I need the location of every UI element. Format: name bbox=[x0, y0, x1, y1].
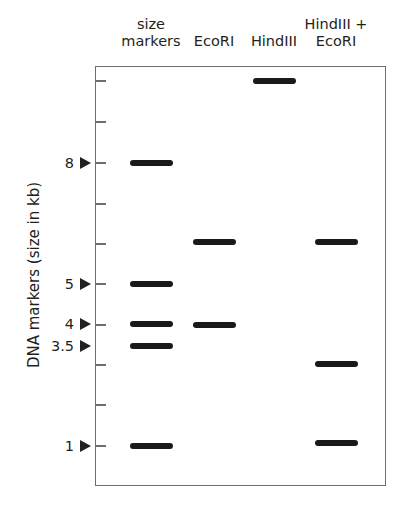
dna-band bbox=[315, 361, 358, 367]
axis-tick bbox=[95, 324, 106, 325]
dna-band bbox=[130, 443, 173, 449]
marker-arrow-icon bbox=[80, 340, 91, 352]
lane-label-ecori: EcoRI bbox=[194, 33, 234, 50]
dna-band bbox=[130, 281, 173, 287]
axis-tick bbox=[95, 121, 106, 122]
marker-arrow-icon bbox=[80, 278, 91, 290]
lane-label-hindiii: HindIII bbox=[251, 33, 297, 50]
marker-arrow-icon bbox=[80, 318, 91, 330]
axis-tick bbox=[95, 243, 106, 244]
axis-tick bbox=[95, 404, 106, 405]
marker-label: 5 bbox=[34, 276, 74, 292]
lane-label-hindiii-ecori: HindIII + EcoRI bbox=[305, 16, 368, 50]
axis-tick bbox=[95, 445, 106, 446]
marker-label: 3.5 bbox=[34, 338, 74, 354]
marker-label: 1 bbox=[34, 438, 74, 454]
axis-tick bbox=[95, 364, 106, 365]
dna-band bbox=[130, 321, 173, 327]
dna-band bbox=[130, 343, 173, 349]
marker-label: 4 bbox=[34, 316, 74, 332]
axis-tick bbox=[95, 80, 106, 81]
marker-label: 8 bbox=[34, 155, 74, 171]
dna-band bbox=[253, 78, 296, 84]
dna-band bbox=[130, 160, 173, 166]
dna-band bbox=[193, 322, 236, 328]
axis-tick bbox=[95, 162, 106, 163]
marker-arrow-icon bbox=[80, 440, 91, 452]
gel-frame bbox=[95, 66, 386, 486]
dna-band bbox=[315, 440, 358, 446]
dna-band bbox=[315, 239, 358, 245]
dna-band bbox=[193, 239, 236, 245]
lane-label-size-markers: size markers bbox=[121, 16, 180, 50]
marker-arrow-icon bbox=[80, 157, 91, 169]
axis-tick bbox=[95, 203, 106, 204]
axis-tick bbox=[95, 283, 106, 284]
